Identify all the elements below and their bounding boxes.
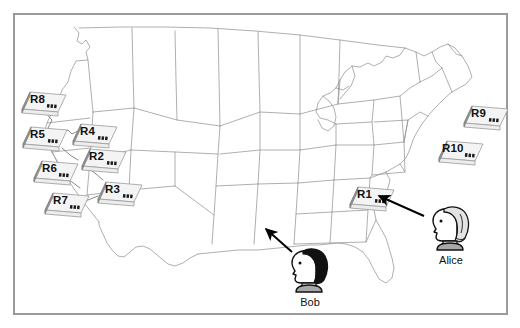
- network-map-diagram: R8 R5 R6: [0, 0, 520, 328]
- person-alice[interactable]: [424, 200, 478, 252]
- arrow-alice-to-r1: [379, 196, 424, 216]
- annotation-arrows: [0, 0, 520, 328]
- person-bob[interactable]: [283, 242, 337, 294]
- person-label-bob: Bob: [283, 296, 337, 308]
- person-label-alice: Alice: [424, 254, 478, 266]
